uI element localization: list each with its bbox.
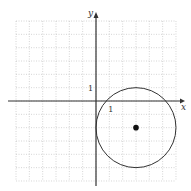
x-tick-label: 1 — [108, 105, 113, 114]
x-axis-label: x — [181, 102, 186, 112]
y-axis-arrow-icon — [94, 12, 99, 18]
coordinate-plane: x y 1 1 — [0, 0, 191, 191]
y-tick-label: 1 — [88, 84, 93, 93]
center-point — [133, 125, 139, 131]
y-axis-label: y — [87, 8, 94, 18]
